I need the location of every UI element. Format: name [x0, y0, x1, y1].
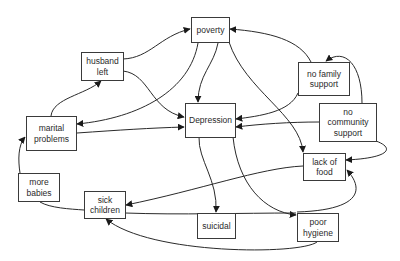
edge-more-babies-to-marital	[19, 137, 25, 173]
edge-more-babies-to-sick-children	[40, 202, 84, 210]
edge-no-family-to-poverty	[230, 29, 311, 62]
node-suicidal: suicidal	[197, 213, 236, 239]
node-depression: Depression	[185, 103, 236, 138]
node-marital-problems: marital problems	[26, 116, 77, 151]
edge-husband-left-to-poverty	[123, 29, 190, 59]
edge-husband-left-to-depression	[123, 71, 184, 117]
node-label: marital problems	[34, 123, 69, 144]
edge-lack-of-food-to-sick-children	[126, 166, 303, 205]
edge-poverty-to-depression	[198, 43, 218, 102]
node-label: no family support	[307, 69, 341, 90]
node-label: poverty	[197, 25, 225, 36]
node-label: sick children	[90, 195, 120, 216]
node-no-family-support: no family support	[298, 62, 350, 96]
edge-no-community-to-lack-of-food	[346, 141, 386, 160]
edge-no-community-to-depression	[236, 122, 319, 127]
edge-depression-to-suicidal	[199, 137, 216, 212]
node-no-community-support: no community support	[319, 103, 377, 142]
node-label: suicidal	[202, 221, 230, 232]
node-label: more babies	[26, 177, 51, 198]
node-poor-hygiene: poor hygiene	[297, 213, 339, 242]
node-label: lack of food	[312, 157, 337, 178]
node-more-babies: more babies	[18, 173, 60, 202]
edge-marital-to-depression	[77, 127, 184, 133]
node-label: no community support	[327, 107, 368, 139]
node-lack-of-food: lack of food	[303, 153, 346, 181]
node-husband-left: husband left	[81, 52, 124, 81]
edge-marital-to-husband-left	[51, 81, 101, 116]
edge-depression-to-poor-hygiene	[233, 137, 296, 215]
node-sick-children: sick children	[84, 191, 126, 219]
node-label: husband left	[86, 56, 119, 77]
node-label: poor hygiene	[303, 217, 333, 238]
edge-poverty-to-lack-of-food	[229, 42, 303, 152]
node-poverty: poverty	[191, 17, 230, 43]
node-label: Depression	[189, 115, 232, 126]
